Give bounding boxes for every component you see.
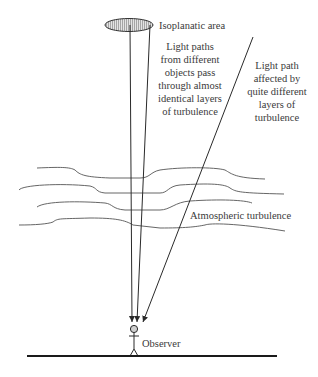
- observer-figure: [129, 325, 139, 356]
- turbulence-layer-2: [19, 184, 284, 194]
- near-paths-caption: Light paths from different objects pass …: [149, 40, 231, 118]
- turbulence-layer-1: [37, 167, 265, 179]
- observer-head: [130, 325, 137, 332]
- isoplanatic-area-label: Isoplanatic area: [159, 19, 225, 32]
- light-path-near-1: [130, 25, 132, 322]
- isoplanatic-area-ellipse: [105, 19, 153, 32]
- far-path-caption: Light path affected by quite different l…: [237, 59, 317, 124]
- turbulence-label: Atmospheric turbulence: [190, 209, 291, 222]
- observer-label: Observer: [142, 337, 180, 350]
